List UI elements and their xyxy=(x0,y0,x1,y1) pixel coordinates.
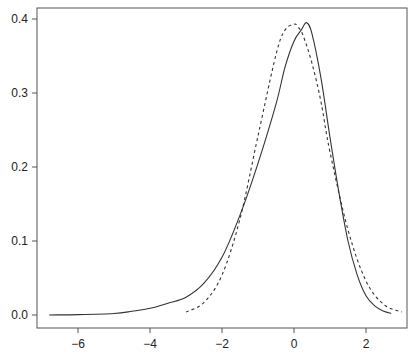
y-tick-label: 0.2 xyxy=(11,160,28,174)
solid-density-curve xyxy=(49,23,391,315)
x-tick-label: −2 xyxy=(215,337,229,351)
x-tick-label: −4 xyxy=(143,337,157,351)
x-axis: −6−4−202 xyxy=(71,328,370,351)
y-axis: 0.00.10.20.30.4 xyxy=(11,12,37,322)
y-tick-label: 0.0 xyxy=(11,308,28,322)
y-tick-label: 0.4 xyxy=(11,12,28,26)
x-tick-label: 2 xyxy=(363,337,370,351)
plot-frame xyxy=(37,8,407,328)
y-tick-label: 0.1 xyxy=(11,234,28,248)
density-plot: −6−4−202 0.00.10.20.30.4 xyxy=(0,0,414,356)
y-tick-label: 0.3 xyxy=(11,86,28,100)
x-tick-label: 0 xyxy=(291,337,298,351)
dashed-density-curve xyxy=(186,24,402,312)
x-tick-label: −6 xyxy=(71,337,85,351)
